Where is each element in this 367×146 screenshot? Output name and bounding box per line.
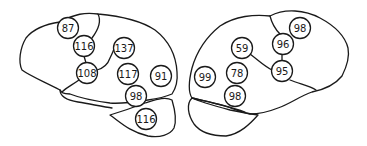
region-node: 108: [77, 63, 98, 84]
region-node: 96: [273, 34, 294, 55]
region-value-label: 137: [114, 43, 133, 54]
region-node: 116: [74, 36, 95, 57]
right-hemisphere-outline: [189, 11, 348, 114]
region-node: 78: [227, 63, 248, 84]
right-central-sulcus: [270, 16, 280, 34]
region-value-label: 91: [155, 71, 168, 82]
region-node: 98: [290, 18, 311, 39]
region-value-label: 99: [199, 72, 212, 83]
region-node: 59: [232, 38, 253, 59]
region-node: 95: [272, 61, 293, 82]
region-value-label: 78: [231, 68, 244, 79]
right-cerebellum: [188, 98, 258, 136]
region-node: 116: [136, 109, 157, 130]
region-value-label: 117: [118, 69, 137, 80]
region-value-label: 98: [294, 23, 307, 34]
right-temporal-border: [290, 80, 316, 90]
region-node: 98: [126, 86, 147, 107]
region-value-label: 116: [74, 41, 93, 52]
region-nodes: 87116137108117919811698965995997898: [58, 18, 311, 130]
left-sylvian-connector: [97, 48, 114, 70]
region-value-label: 98: [130, 91, 143, 102]
region-node: 99: [195, 67, 216, 88]
region-node: 98: [225, 86, 246, 107]
region-node: 87: [58, 18, 79, 39]
region-value-label: 95: [276, 66, 289, 77]
region-value-label: 98: [229, 91, 242, 102]
region-value-label: 116: [136, 114, 155, 125]
region-node: 117: [118, 64, 139, 85]
left-sylvian-fissure: [62, 80, 79, 92]
region-value-label: 108: [77, 68, 96, 79]
region-node: 137: [114, 38, 135, 59]
right-sylvian-connector: [250, 54, 272, 70]
brain-diagram: 87116137108117919811698965995997898: [0, 0, 367, 146]
region-value-label: 87: [62, 23, 75, 34]
region-value-label: 59: [236, 43, 249, 54]
region-value-label: 96: [277, 39, 290, 50]
brain-diagram-canvas: 87116137108117919811698965995997898: [0, 0, 367, 146]
region-node: 91: [151, 66, 172, 87]
